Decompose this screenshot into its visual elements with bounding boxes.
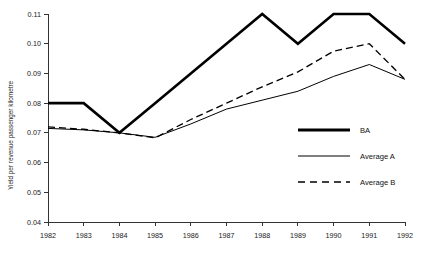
x-tick-label: 1989 [290, 231, 306, 240]
line-chart: Yield per revenue passenger kilometre 0.… [0, 0, 425, 255]
x-tick-label: 1990 [326, 231, 342, 240]
y-tick-label: 0.05 [27, 188, 41, 197]
x-axis-ticks: 1982198319841985198619871988198919901991… [40, 222, 413, 240]
legend-label-ba: BA [360, 126, 371, 135]
series-line-average-a [48, 65, 405, 138]
series-line-average-b [48, 44, 405, 138]
x-tick-label: 1986 [183, 231, 199, 240]
y-tick-label: 0.10 [27, 39, 41, 48]
x-tick-label: 1982 [40, 231, 56, 240]
x-tick-label: 1984 [111, 231, 127, 240]
x-tick-label: 1988 [254, 231, 270, 240]
series-layer [48, 14, 405, 138]
x-tick-label: 1985 [147, 231, 163, 240]
y-tick-label: 0.06 [27, 158, 41, 167]
y-tick-label: 0.11 [28, 10, 41, 19]
y-tick-label: 0.04 [27, 218, 41, 227]
x-tick-label: 1987 [219, 231, 235, 240]
chart-legend: BA Average A Average B [298, 126, 396, 187]
y-tick-label: 0.07 [27, 128, 41, 137]
y-axis-title: Yield per revenue passenger kilometre [7, 80, 15, 190]
x-tick-label: 1991 [361, 231, 377, 240]
y-tick-label: 0.09 [27, 69, 41, 78]
y-axis-ticks: 0.040.050.060.070.080.090.100.11 [27, 10, 48, 227]
chart-container: Yield per revenue passenger kilometre 0.… [0, 0, 425, 255]
x-tick-label: 1992 [397, 231, 413, 240]
series-line-ba [48, 14, 405, 133]
y-tick-label: 0.08 [27, 99, 41, 108]
legend-label-average-b: Average B [360, 178, 395, 187]
legend-label-average-a: Average A [360, 152, 396, 161]
x-tick-label: 1983 [76, 231, 92, 240]
